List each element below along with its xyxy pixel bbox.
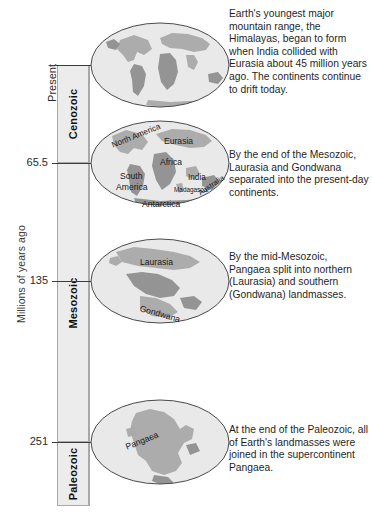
- timeline-diagram: Millions of years ago CenozoicMesozoicPa…: [0, 0, 372, 525]
- era-label: Mesozoic: [67, 277, 79, 328]
- tick-label-65-5: 65.5: [0, 156, 48, 168]
- continent-label-america: America: [116, 182, 148, 192]
- globe-135: LaurasiaGondwana: [90, 238, 230, 324]
- tick-label-present: Present: [46, 64, 58, 116]
- continent-label-india: India: [188, 173, 206, 182]
- caption-65: By the end of the Mesozoic, Laurasia and…: [229, 149, 369, 199]
- continent-label-laurasia: Laurasia: [140, 257, 173, 267]
- globe-65: North AmericaEurasiaAfricaIndiaSouthAmer…: [90, 120, 230, 206]
- era-band-cenozoic: Cenozoic: [57, 65, 89, 163]
- era-label: Cenozoic: [67, 89, 79, 140]
- continent-label-africa: Africa: [160, 157, 182, 167]
- globe-251: Pangaea: [90, 399, 230, 485]
- era-label: Paleozoic: [67, 448, 79, 501]
- globe-present: [90, 22, 230, 108]
- caption-135: By the mid-Mesozoic, Pangaea split into …: [229, 251, 369, 301]
- tick-label-251: 251: [0, 435, 48, 447]
- continent-label-south: South: [120, 171, 142, 181]
- caption-251: At the end of the Paleozoic, all of Eart…: [229, 424, 369, 474]
- era-band-paleozoic: Paleozoic: [57, 442, 89, 506]
- continent-label-antarctica: Antarctica: [142, 199, 180, 209]
- era-band-mesozoic: Mesozoic: [57, 163, 89, 442]
- caption-present: Earth's youngest major mountain range, t…: [229, 8, 369, 96]
- tick-label-135: 135: [0, 274, 48, 286]
- continent-label-eurasia: Eurasia: [164, 136, 193, 146]
